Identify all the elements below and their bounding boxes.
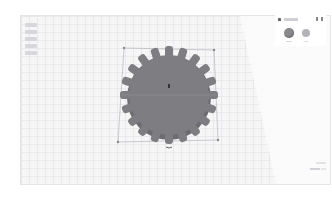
solid-label: Solid — [283, 40, 295, 43]
hole-label: Hole — [300, 40, 312, 43]
hole-option-button[interactable] — [302, 29, 310, 37]
settings-label[interactable] — [316, 162, 326, 164]
collapse-icon[interactable] — [321, 17, 323, 21]
snap-grid-value[interactable] — [321, 168, 326, 170]
panel-header — [278, 17, 324, 23]
status-bar — [300, 162, 326, 176]
snap-grid-label — [310, 168, 320, 170]
lightbulb-icon[interactable] — [316, 17, 318, 21]
lock-icon[interactable] — [278, 18, 281, 21]
panel-icons — [314, 17, 324, 22]
shape-inspector-panel: Solid Hole — [275, 14, 326, 46]
app-window: Solid Hole — [0, 0, 332, 200]
shape-title — [284, 18, 298, 21]
solid-option-button[interactable] — [284, 28, 294, 38]
